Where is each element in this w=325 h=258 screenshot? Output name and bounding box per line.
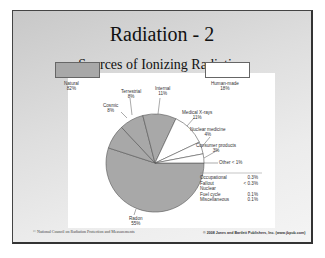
label-consumer-products: Consumer products3% xyxy=(196,143,236,153)
other-breakdown-table: Occupational0.3% Fallout< 0.3% Nuclear F… xyxy=(200,175,258,203)
label-internal: Internal11% xyxy=(155,86,170,96)
pie-chart xyxy=(0,0,325,258)
label-terrestrial: Terrestrial8% xyxy=(121,89,141,99)
label-medical-xrays: Medical X-rays11% xyxy=(182,110,212,120)
label-radon: Radon55% xyxy=(129,216,143,226)
label-nuclear-medicine: Nuclear medicine4% xyxy=(190,127,226,137)
table-row: Miscellaneous0.1% xyxy=(200,197,258,203)
label-cosmic: Cosmic8% xyxy=(103,103,118,113)
label-other: Other < 1% xyxy=(219,160,242,165)
